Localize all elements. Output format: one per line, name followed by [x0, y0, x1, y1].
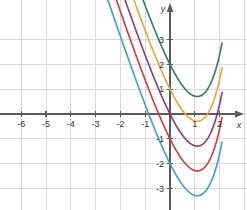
y-tick-label: 2: [159, 60, 164, 70]
x-tick-label: -5: [42, 119, 50, 129]
x-tick-label: 1: [192, 119, 197, 129]
x-axis-label: x: [236, 120, 242, 130]
chart-figure: -6-5-4-3-2-112321-1-2-3xy: [0, 0, 247, 210]
y-tick-label: -3: [156, 184, 164, 194]
plot-background: [0, 0, 247, 210]
x-tick-label: -1: [141, 119, 149, 129]
x-tick-label: -2: [116, 119, 124, 129]
y-axis-label: y: [160, 4, 166, 14]
x-tick-label: -3: [92, 119, 100, 129]
y-tick-label: -1: [156, 134, 164, 144]
x-tick-label: -4: [67, 119, 75, 129]
y-tick-label: -2: [156, 159, 164, 169]
exponential-family-plot: -6-5-4-3-2-112321-1-2-3xy: [0, 0, 247, 210]
x-tick-label: 2: [217, 119, 222, 129]
y-tick-label: 1: [159, 84, 164, 94]
x-tick-label: -6: [17, 119, 25, 129]
y-tick-label: 3: [159, 35, 164, 45]
